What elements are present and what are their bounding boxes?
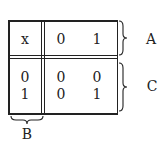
vertical-divider-1 bbox=[41, 20, 42, 115]
corner-cell: x bbox=[18, 32, 32, 46]
header-value: 0 bbox=[54, 32, 68, 46]
brace-label-b: B bbox=[20, 127, 34, 141]
body-cell: 0 bbox=[54, 87, 68, 101]
vertical-divider-2 bbox=[44, 20, 45, 115]
table-border-top bbox=[8, 20, 118, 22]
body-cell: 0 bbox=[90, 70, 104, 84]
body-cell: 1 bbox=[90, 87, 104, 101]
brace-label-a: A bbox=[144, 32, 158, 46]
row-label: 0 bbox=[18, 70, 32, 84]
table-border-left bbox=[8, 20, 10, 115]
brace-header-icon bbox=[118, 20, 130, 56]
brace-label-c: C bbox=[145, 79, 159, 93]
brace-rowlabels-icon bbox=[10, 115, 44, 125]
horizontal-divider-2 bbox=[8, 58, 118, 59]
horizontal-divider-1 bbox=[8, 55, 118, 56]
body-cell: 0 bbox=[54, 70, 68, 84]
brace-body-icon bbox=[118, 62, 130, 112]
header-value: 1 bbox=[90, 32, 104, 46]
truth-table-diagram: x 0 1 0 1 0 0 0 1 A C B bbox=[0, 0, 168, 144]
row-label: 1 bbox=[18, 87, 32, 101]
